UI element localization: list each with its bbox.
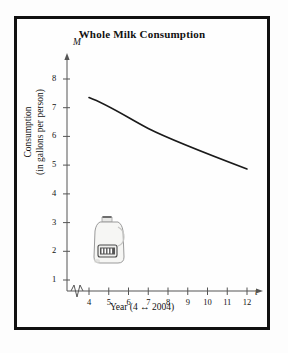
x-tick-label: 12 <box>240 297 254 307</box>
data-curve <box>89 98 247 170</box>
x-tick-label: 8 <box>161 297 175 307</box>
figure-page: Whole Milk Consumption M t Consumption (… <box>0 0 288 353</box>
y-tick-label: 8 <box>47 73 61 83</box>
x-tick-label: 4 <box>82 297 96 307</box>
figure-frame-inner: Whole Milk Consumption M t Consumption (… <box>17 19 267 327</box>
x-tick-label: 11 <box>220 297 234 307</box>
x-tick-label: 10 <box>201 297 215 307</box>
y-tick-label: 1 <box>47 274 61 284</box>
y-tick-label: 7 <box>47 102 61 112</box>
x-tick-label: 6 <box>122 297 136 307</box>
y-tick-label: 6 <box>47 130 61 140</box>
figure-frame: Whole Milk Consumption M t Consumption (… <box>14 16 270 330</box>
y-tick-label: 2 <box>47 245 61 255</box>
y-tick-label: 5 <box>47 159 61 169</box>
x-tick-label: 7 <box>141 297 155 307</box>
x-tick-label: 9 <box>181 297 195 307</box>
y-tick-label: 4 <box>47 188 61 198</box>
y-tick-label: 3 <box>47 217 61 227</box>
x-axis-arrowhead <box>256 288 263 293</box>
y-axis-arrowhead <box>64 53 69 60</box>
x-tick-label: 5 <box>102 297 116 307</box>
